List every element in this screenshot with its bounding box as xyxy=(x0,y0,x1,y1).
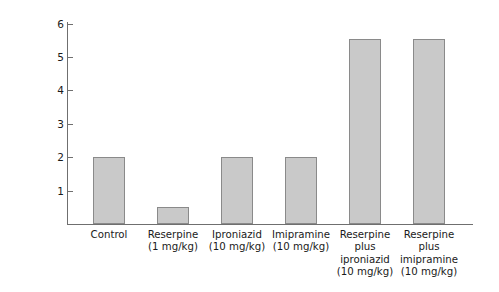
y-tick-mark xyxy=(68,24,73,25)
y-tick-mark xyxy=(68,90,73,91)
plot-area: 123456 ControlReserpine (1 mg/kg)Ipronia… xyxy=(0,0,499,292)
y-tick-mark xyxy=(68,157,73,158)
x-axis-category-label: Reserpine plus imipramine (10 mg/kg) xyxy=(391,229,467,279)
y-tick-mark xyxy=(68,57,73,58)
y-tick-label: 6 xyxy=(44,19,64,29)
y-tick-label: 5 xyxy=(44,52,64,62)
bar xyxy=(157,207,189,224)
bar xyxy=(221,157,253,224)
y-tick-label: 3 xyxy=(44,119,64,129)
bar-chart-figure: Locomotor activity (arbitrary units) 123… xyxy=(0,0,499,292)
y-tick-label: 4 xyxy=(44,85,64,95)
y-tick-label: 1 xyxy=(44,186,64,196)
bar xyxy=(285,157,317,224)
bar xyxy=(349,39,381,224)
y-tick-mark xyxy=(68,191,73,192)
x-axis-line xyxy=(67,224,473,225)
y-tick-label: 2 xyxy=(44,152,64,162)
y-tick-mark xyxy=(68,124,73,125)
bar xyxy=(93,157,125,224)
bar xyxy=(413,39,445,224)
